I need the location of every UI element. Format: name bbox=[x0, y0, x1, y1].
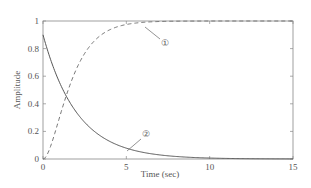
x-tick-label: 5 bbox=[124, 162, 129, 172]
x-axis-label: Time (sec) bbox=[141, 169, 179, 179]
y-tick-label: 0 bbox=[35, 154, 40, 164]
y-tick-label: 0.2 bbox=[28, 126, 39, 136]
series-2-solid-line bbox=[43, 35, 293, 159]
x-tick-label: 15 bbox=[289, 162, 299, 172]
y-axis-label: Amplitude bbox=[12, 71, 22, 110]
y-tick-label: 1 bbox=[35, 16, 40, 26]
x-tick-label: 0 bbox=[41, 162, 46, 172]
annotation-2-leader bbox=[127, 139, 141, 151]
annotation-2-label: ② bbox=[142, 129, 150, 139]
y-tick-label: 0.4 bbox=[28, 99, 40, 109]
annotation-1-label: ① bbox=[161, 38, 169, 48]
annotation-1-leader bbox=[145, 27, 160, 39]
y-tick-label: 0.6 bbox=[28, 71, 40, 81]
step-response-chart: 05101500.20.40.60.81 ① ② Time (sec) Ampl… bbox=[0, 0, 311, 188]
x-tick-label: 10 bbox=[205, 162, 215, 172]
y-tick-label: 0.8 bbox=[28, 44, 40, 54]
